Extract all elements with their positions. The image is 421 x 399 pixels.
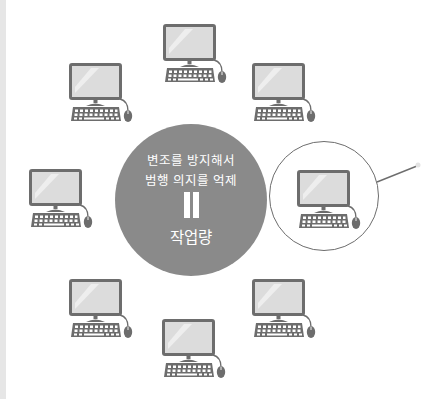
callout-line <box>0 0 421 399</box>
